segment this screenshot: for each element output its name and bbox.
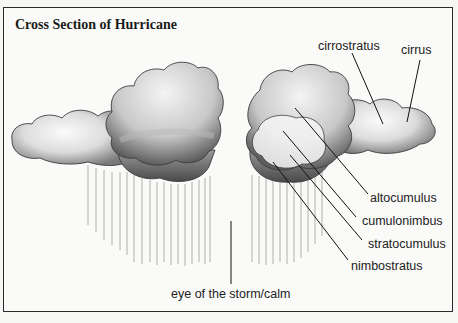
label-cirrostratus: cirrostratus <box>318 39 380 53</box>
label-cumulonimbus: cumulonimbus <box>362 214 443 228</box>
label-altocumulus: altocumulus <box>370 191 437 205</box>
label-stratocumulus: stratocumulus <box>368 237 446 251</box>
hurricane-illustration <box>0 0 458 323</box>
right-rain <box>252 172 322 265</box>
label-nimbostratus: nimbostratus <box>351 259 423 273</box>
label-eye-of-storm: eye of the storm/calm <box>171 287 291 301</box>
label-cirrus: cirrus <box>401 43 432 57</box>
left-cloud <box>12 62 223 181</box>
